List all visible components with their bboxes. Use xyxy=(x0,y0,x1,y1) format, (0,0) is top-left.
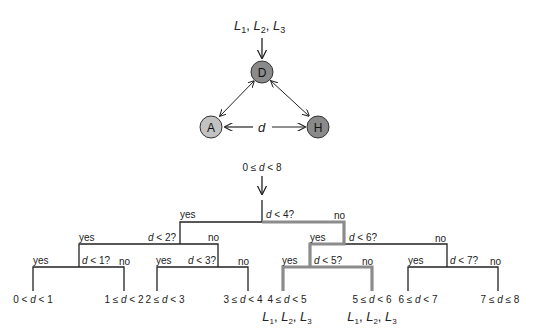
svg-text:d < 4?: d < 4? xyxy=(266,209,295,220)
edge-d-h xyxy=(271,81,309,116)
svg-text:d < 7?: d < 7? xyxy=(450,255,479,266)
leaf-1: 1 ≤ d < 2 xyxy=(104,294,144,305)
leaf-5: 5 ≤ d < 6 xyxy=(352,294,392,305)
svg-text:no: no xyxy=(435,233,447,244)
svg-text:no: no xyxy=(119,256,131,267)
svg-text:d < 5?: d < 5? xyxy=(314,255,343,266)
node-h: H xyxy=(307,116,329,138)
leaf-input-labels: L1, L2, L3 L1, L2, L3 xyxy=(262,309,397,326)
leaf-7: 7 ≤ d ≤ 8 xyxy=(481,294,520,305)
svg-text:A: A xyxy=(207,121,215,135)
svg-text:yes: yes xyxy=(79,232,95,243)
leaf-6: 6 ≤ d < 7 xyxy=(398,294,438,305)
svg-text:no: no xyxy=(238,256,250,267)
node-a: A xyxy=(200,116,222,138)
input-label: L1, L2, L3 xyxy=(234,18,285,35)
svg-text:yes: yes xyxy=(310,232,326,243)
svg-text:no: no xyxy=(334,210,346,221)
svg-text:D: D xyxy=(258,66,267,80)
leaf-3: 3 ≤ d < 4 xyxy=(223,294,263,305)
svg-text:yes: yes xyxy=(180,209,196,220)
svg-text:L1, L2, L3: L1, L2, L3 xyxy=(234,18,285,35)
svg-text:d < 1?: d < 1? xyxy=(82,255,111,266)
svg-text:no: no xyxy=(362,256,374,267)
leaf-4: 4 ≤ d < 5 xyxy=(267,294,307,305)
node-d: D xyxy=(251,61,273,83)
svg-text:d < 2?: d < 2? xyxy=(148,232,177,243)
svg-text:yes: yes xyxy=(282,255,298,266)
svg-text:d < 6?: d < 6? xyxy=(349,232,378,243)
svg-text:no: no xyxy=(490,256,502,267)
svg-text:no: no xyxy=(208,232,220,243)
svg-text:yes: yes xyxy=(33,255,49,266)
edge-label-d: d xyxy=(258,120,266,135)
decision-tree-diagram: L1, L2, L3 d D A H 0 ≤ d < 8 d < 4? d < xyxy=(0,0,533,334)
edge-d-a xyxy=(220,81,254,116)
svg-text:d < 3?: d < 3? xyxy=(188,255,217,266)
svg-text:L1, L2, L3: L1, L2, L3 xyxy=(262,309,312,326)
leaf-labels: 0 < d < 1 1 ≤ d < 2 2 ≤ d < 3 3 ≤ d < 4 … xyxy=(13,294,520,305)
svg-text:H: H xyxy=(314,121,323,135)
svg-text:L1, L2, L3: L1, L2, L3 xyxy=(347,309,397,326)
svg-text:yes: yes xyxy=(408,255,424,266)
svg-text:yes: yes xyxy=(156,255,172,266)
root-range-label: 0 ≤ d < 8 xyxy=(242,162,282,173)
leaf-2: 2 ≤ d < 3 xyxy=(145,294,185,305)
leaf-0: 0 < d < 1 xyxy=(13,294,53,305)
